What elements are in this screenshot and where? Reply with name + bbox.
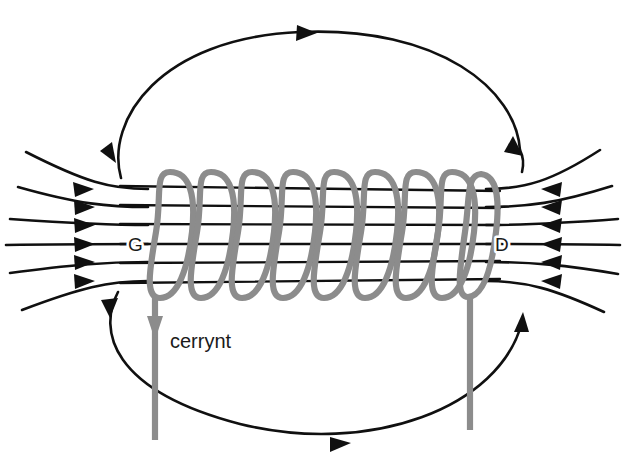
left-field-fan [6, 152, 148, 310]
left-fan-line-1 [26, 152, 148, 189]
coil-turn-4 [273, 172, 316, 298]
left-fan-arrow-4 [74, 237, 95, 252]
left-fan-line-6 [22, 281, 148, 310]
left-fan-arrow-3 [74, 218, 95, 233]
left-pole-label: G [128, 234, 143, 255]
core-field-line-3 [120, 224, 500, 225]
current-direction-arrow [147, 316, 163, 340]
coil-turn-5 [314, 172, 357, 298]
left-fan-arrow-1 [73, 182, 94, 197]
right-fan-arrow-3 [541, 218, 562, 233]
top-loop-arrow-descend-left [100, 142, 116, 163]
right-field-fan [486, 150, 620, 312]
diagram-canvas: G D cerrynt [0, 0, 624, 462]
top-loop-left-arc [118, 32, 520, 178]
right-pole-label: D [495, 234, 509, 255]
solenoid-field-diagram: G D cerrynt [0, 0, 624, 462]
top-return-loop [100, 25, 523, 178]
bottom-loop-arrow-right [330, 437, 351, 452]
right-fan-arrow-6 [541, 274, 562, 289]
right-fan-arrow-1 [541, 182, 562, 197]
top-loop-arrow-right [296, 25, 317, 41]
bottom-loop-arrow-left [101, 298, 118, 318]
left-fan-arrow-5 [74, 255, 95, 270]
coil-turn-3 [232, 172, 275, 298]
bottom-return-loop [101, 292, 529, 452]
right-fan-line-1 [486, 150, 600, 189]
right-fan-arrow-5 [541, 255, 562, 270]
coil-turn-1 [150, 172, 193, 298]
bottom-loop-arc [110, 292, 522, 434]
coil-turn-2 [191, 172, 234, 298]
current-label: cerrynt [170, 330, 232, 352]
bottom-loop-arrow-ascend-right [514, 312, 529, 332]
right-fan-arrow-4 [541, 237, 562, 252]
right-fan-line-6 [486, 281, 604, 312]
